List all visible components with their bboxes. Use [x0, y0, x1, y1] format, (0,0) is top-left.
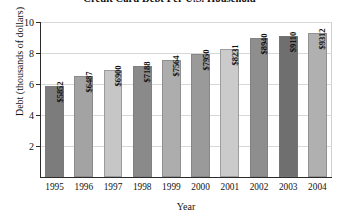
- gridline: [41, 22, 332, 23]
- x-tick-label: 2002: [250, 182, 269, 192]
- x-tick-label: 2000: [191, 182, 210, 192]
- bar: $7188: [133, 66, 152, 177]
- x-axis-label: Year: [40, 201, 332, 212]
- x-tick-label: 2003: [279, 182, 298, 192]
- bar: $6900: [104, 70, 123, 177]
- x-tick-label: 2004: [308, 182, 327, 192]
- x-tick-label: 1998: [133, 182, 152, 192]
- y-tick-label: 2: [29, 141, 34, 152]
- y-tick-label: 8: [29, 48, 34, 59]
- bar-value-label: $9312: [317, 28, 327, 49]
- x-tick-label: 2001: [221, 182, 240, 192]
- y-axis-spine: [40, 22, 41, 178]
- bar-value-label: $9110: [288, 32, 298, 53]
- x-axis-spine: [40, 177, 332, 178]
- x-tick-label: 1999: [162, 182, 181, 192]
- y-tick-mark: [36, 115, 40, 116]
- plot-border-right: [331, 22, 332, 178]
- x-tick-label: 1997: [104, 182, 123, 192]
- bar: $8231: [220, 49, 239, 177]
- plot-area: 246810 $5852$6487$6900$7188$7564$7950$82…: [40, 22, 332, 178]
- y-axis-label: Debt (thousands of dollars): [14, 0, 25, 132]
- bar-value-label: $5852: [55, 82, 65, 103]
- chart-figure: Credit Card Debt Per U.S. Household Debt…: [0, 0, 339, 219]
- bar: $8940: [250, 38, 269, 177]
- bar: $9110: [279, 36, 298, 177]
- bar: $7564: [162, 60, 181, 177]
- bar-value-label: $7188: [142, 61, 152, 82]
- x-tick-label: 1996: [75, 182, 94, 192]
- bar-value-label: $7564: [171, 55, 181, 76]
- bar-value-label: $6900: [113, 66, 123, 87]
- bar-value-label: $6487: [84, 72, 94, 93]
- bar: $9312: [308, 33, 327, 177]
- y-tick-mark: [36, 53, 40, 54]
- bar-value-label: $8231: [230, 45, 240, 66]
- y-tick-mark: [36, 22, 40, 23]
- bar: $7950: [191, 54, 210, 177]
- y-tick-label: 10: [24, 17, 34, 28]
- y-tick-mark: [36, 84, 40, 85]
- bar: $6487: [74, 76, 93, 177]
- chart-title: Credit Card Debt Per U.S. Household: [0, 0, 339, 4]
- bar-value-label: $8940: [259, 34, 269, 55]
- y-tick-label: 4: [29, 110, 34, 121]
- y-tick-mark: [36, 146, 40, 147]
- y-tick-label: 6: [29, 79, 34, 90]
- bar-value-label: $7950: [201, 49, 211, 70]
- x-tick-label: 1995: [45, 182, 64, 192]
- bar: $5852: [45, 86, 64, 177]
